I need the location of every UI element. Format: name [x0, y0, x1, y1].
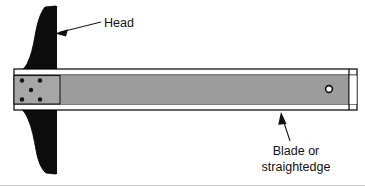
blade-label-line-1: Blade or: [273, 144, 320, 158]
blade-right-top-notch: [350, 76, 357, 104]
blade-label-line-2: straightedge: [262, 160, 331, 174]
rivet: [29, 88, 33, 92]
t-square-figure: Head Blade or straightedge: [0, 0, 365, 186]
rivet: [20, 97, 24, 101]
blade-face: [14, 76, 357, 104]
rivet: [38, 97, 42, 101]
t-square-blade-group: [14, 69, 357, 110]
head-label-group: Head: [55, 16, 134, 36]
bottom-rule: [0, 185, 365, 186]
mounting-plate-group: [14, 76, 60, 104]
rivet: [38, 78, 42, 82]
blade-leader-arrowhead: [278, 112, 286, 125]
rivet: [20, 78, 24, 82]
head-label: Head: [104, 16, 134, 30]
hanging-hole: [325, 85, 333, 93]
t-square-illustration: Head Blade or straightedge: [0, 0, 365, 186]
blade-label-group: Blade or straightedge: [262, 112, 331, 174]
